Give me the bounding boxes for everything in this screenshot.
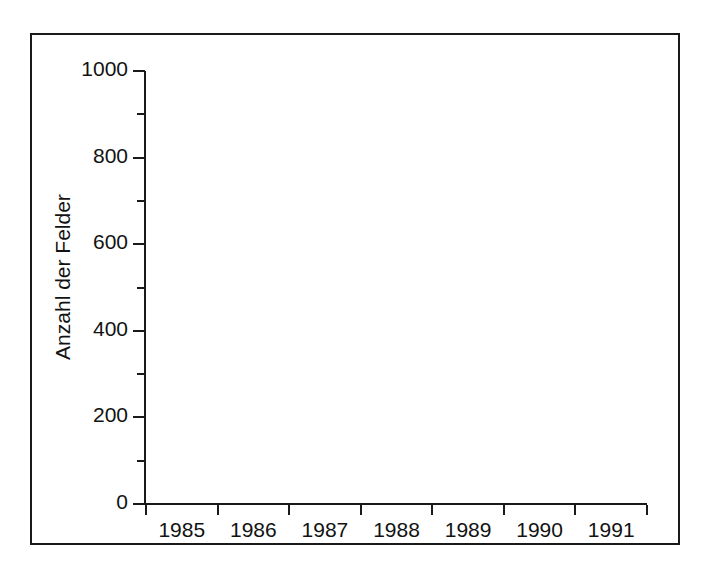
x-tick: [217, 505, 219, 515]
x-tick: [431, 505, 433, 515]
y-tick-minor: [137, 287, 145, 289]
y-tick-label-text: 200: [93, 403, 128, 427]
y-tick-major: [133, 416, 145, 418]
y-tick-label-text: 800: [93, 144, 128, 168]
x-tick: [574, 505, 576, 515]
x-axis-label-1987: 1987: [289, 518, 361, 542]
chart-plot-area: Anzahl der Felder 02004006008001000 1985…: [0, 0, 713, 582]
x-tick: [646, 505, 648, 515]
y-tick-label-text: 0: [116, 490, 128, 514]
y-tick-minor: [137, 460, 145, 462]
y-tick-minor: [137, 200, 145, 202]
x-axis-label-1988: 1988: [361, 518, 433, 542]
y-tick-label-text: 600: [93, 230, 128, 254]
x-tick: [360, 505, 362, 515]
x-axis-label-1991: 1991: [575, 518, 647, 542]
x-tick: [288, 505, 290, 515]
x-tick: [503, 505, 505, 515]
y-tick-major: [133, 70, 145, 72]
x-axis-line: [144, 503, 647, 505]
y-tick-label-text: 1000: [81, 57, 128, 81]
y-tick-label-text: 400: [93, 317, 128, 341]
x-tick: [145, 505, 147, 515]
y-tick-minor: [137, 113, 145, 115]
y-tick-major: [133, 243, 145, 245]
y-tick-major: [133, 503, 145, 505]
x-axis-label-1989: 1989: [432, 518, 504, 542]
y-tick-minor: [137, 373, 145, 375]
y-tick-major: [133, 157, 145, 159]
x-axis-label-1986: 1986: [218, 518, 290, 542]
x-axis-label-1990: 1990: [504, 518, 576, 542]
y-axis-title: Anzahl der Felder: [51, 162, 75, 392]
x-axis-label-1985: 1985: [146, 518, 218, 542]
y-tick-major: [133, 330, 145, 332]
